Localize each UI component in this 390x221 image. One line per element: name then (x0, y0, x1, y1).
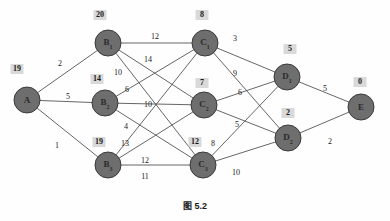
graph-edge-a-b2 (40, 100, 92, 102)
graph-node-b3 (95, 152, 121, 178)
graph-edge-a-b1 (38, 50, 98, 92)
graph-diagram (0, 0, 390, 221)
graph-node-a (14, 87, 40, 113)
graph-node-d2 (275, 125, 301, 151)
graph-edge-c1-d1 (217, 48, 275, 72)
graph-node-c1 (192, 30, 218, 56)
graph-edge-b2-c1 (116, 50, 194, 97)
graph-edge-b2-c3 (116, 110, 192, 158)
graph-edge-c3-d1 (212, 86, 278, 155)
caption-text: 图 5.2 (183, 201, 207, 211)
graph-edge-c2-d1 (216, 81, 274, 101)
graph-edge-d1-e (299, 82, 349, 102)
figure-container: 2511214106104131211396581052A19B120B214B… (0, 0, 390, 221)
figure-caption: 图 5.2 (183, 199, 207, 212)
graph-edge-b2-c2 (118, 103, 191, 104)
graph-node-b2 (92, 90, 118, 116)
graph-node-b1 (95, 30, 121, 56)
graph-edge-a-b3 (37, 108, 98, 157)
graph-edge-d2-e (300, 112, 349, 133)
graph-node-c2 (191, 92, 217, 118)
graph-node-e (348, 94, 374, 120)
graph-node-c3 (190, 152, 216, 178)
graph-edge-c3-d2 (215, 142, 275, 161)
graph-node-d1 (274, 64, 300, 90)
nodes-layer (14, 30, 374, 178)
